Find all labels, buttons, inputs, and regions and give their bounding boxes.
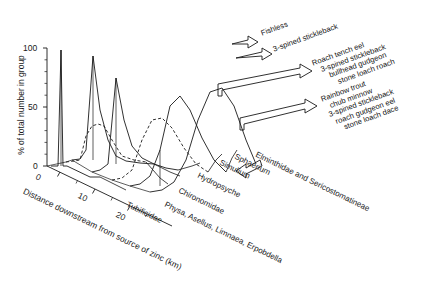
y-tick-label-0: 0 xyxy=(33,161,38,171)
arrow-three-spined-stickleback xyxy=(236,48,272,60)
y-tick-label-50: 50 xyxy=(28,102,37,112)
arrow-fishless xyxy=(232,36,258,48)
x-tick-10 xyxy=(93,189,96,194)
y-axis-title: % of total number in group xyxy=(16,40,26,170)
series-sphaerium xyxy=(130,96,226,186)
zinc-distribution-figure: % of total number in group 100 50 0 0 10… xyxy=(0,0,427,295)
arrow-roach-tench-eel xyxy=(218,64,312,96)
y-tick-label-100: 100 xyxy=(23,43,37,53)
series-hydropsyche xyxy=(92,78,178,172)
peak-droplines xyxy=(61,50,160,186)
leader-hydropsyche xyxy=(178,163,200,170)
depth-baselines xyxy=(47,160,150,192)
series-physa-asellus xyxy=(66,124,146,162)
arrow-rainbow-trout xyxy=(240,99,317,130)
x-tick-0 xyxy=(58,172,61,177)
